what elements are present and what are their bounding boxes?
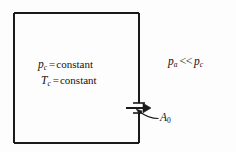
diagram-vector-layer — [0, 0, 236, 152]
chamber-temperature-equation: Tc=constant — [41, 74, 97, 90]
ambient-pressure-inequality: pa<<pc — [168, 54, 203, 72]
chamber-pressure-relation: = — [47, 58, 56, 70]
chamber-pressure-equation: pc=constant — [38, 58, 93, 74]
chamber-temperature-relation: = — [51, 74, 60, 86]
figure-canvas: pc=constant Tc=constant pa<<pc A0 — [0, 0, 236, 152]
inequality-chamber-pressure-subscript: c — [200, 60, 203, 69]
orifice-area-subscript: 0 — [167, 116, 171, 125]
ambient-pressure-subscript: a — [174, 60, 178, 69]
much-less-than-operator: << — [178, 54, 195, 68]
chamber-temperature-value: constant — [60, 74, 97, 86]
orifice-area-symbol: A — [160, 111, 167, 123]
flow-arrow-head — [143, 103, 151, 113]
chamber-pressure-value: constant — [56, 58, 93, 70]
orifice-area-label: A0 — [160, 111, 171, 127]
orifice-leader-line — [140, 112, 159, 119]
